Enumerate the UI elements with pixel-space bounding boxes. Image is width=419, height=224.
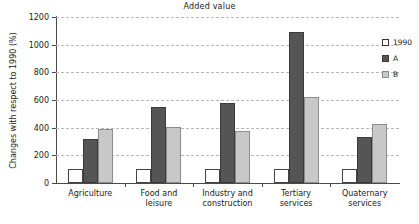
- y-axis-tick: [52, 17, 56, 18]
- y-axis-tick-label: 200: [34, 151, 49, 160]
- bar-1990: [68, 169, 83, 183]
- bar-a: [220, 103, 235, 183]
- x-axis-line: [56, 183, 400, 184]
- x-axis-tick: [193, 183, 194, 187]
- legend-entry: A: [382, 52, 412, 64]
- bar-group: [274, 17, 319, 183]
- bar-group: [342, 17, 387, 183]
- added-value-bar-chart: Added value Changes with respect to 1990…: [0, 0, 419, 224]
- bar-b: [304, 97, 319, 183]
- plot-area: 020040060080010001200: [56, 17, 399, 183]
- legend-label: B: [393, 70, 398, 79]
- chart-legend: 1990AB: [382, 36, 412, 84]
- bar-1990: [342, 169, 357, 183]
- x-axis-category-label: Tertiary services: [262, 189, 331, 209]
- legend-swatch-b: [382, 71, 389, 78]
- x-axis-tick: [125, 183, 126, 187]
- legend-label: A: [393, 54, 398, 63]
- x-axis-tick: [330, 183, 331, 187]
- x-axis-category-label: Industry and construction: [193, 189, 262, 209]
- y-axis-tick: [52, 128, 56, 129]
- legend-entry: B: [382, 68, 412, 80]
- legend-swatch-a: [382, 55, 389, 62]
- bar-b: [98, 129, 113, 183]
- y-axis-tick-label: 600: [34, 96, 49, 105]
- bar-group: [136, 17, 181, 183]
- bar-1990: [205, 169, 220, 183]
- bar-1990: [274, 169, 289, 183]
- legend-label: 1990: [393, 38, 412, 47]
- bar-a: [289, 32, 304, 183]
- bar-b: [235, 131, 250, 183]
- legend-swatch-1990: [382, 39, 389, 46]
- bar-a: [151, 107, 166, 183]
- y-axis-tick: [52, 155, 56, 156]
- y-axis-tick-label: 400: [34, 123, 49, 132]
- bar-1990: [136, 169, 151, 183]
- bar-b: [372, 124, 387, 183]
- y-axis-tick: [52, 45, 56, 46]
- y-axis-label: Changes with respect to 1990 (%): [9, 11, 18, 191]
- bar-a: [83, 139, 98, 183]
- x-axis-category-label: Food and leisure: [125, 189, 194, 209]
- y-axis-tick-label: 1000: [29, 40, 49, 49]
- x-axis-category-label: Agriculture: [56, 189, 125, 199]
- y-axis-tick-label: 0: [44, 179, 49, 188]
- bar-group: [68, 17, 113, 183]
- bar-group: [205, 17, 250, 183]
- y-axis-tick-label: 1200: [29, 13, 49, 22]
- y-axis-tick-label: 800: [34, 68, 49, 77]
- x-axis-tick: [262, 183, 263, 187]
- x-axis-category-label: Quaternary services: [330, 189, 399, 209]
- y-axis-tick: [52, 72, 56, 73]
- y-axis-tick: [52, 100, 56, 101]
- chart-title: Added value: [0, 2, 419, 11]
- bar-a: [357, 137, 372, 183]
- y-axis-tick: [52, 183, 56, 184]
- bar-b: [166, 127, 181, 183]
- legend-entry: 1990: [382, 36, 412, 48]
